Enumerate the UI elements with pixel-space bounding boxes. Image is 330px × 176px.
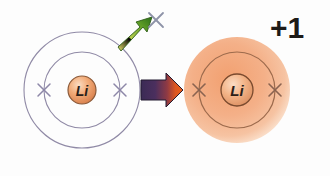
ion-charge-label: +1: [270, 11, 304, 44]
transformation-arrow: [141, 73, 183, 107]
diagram-canvas: Li Li +1: [0, 0, 330, 176]
electron-ejection-arrow: [118, 17, 152, 51]
ion-nucleus-label: Li: [230, 82, 244, 99]
lithium-ion: Li +1: [184, 11, 304, 143]
lithium-ionization-diagram: Li Li +1: [0, 0, 330, 176]
neutral-atom-nucleus-label: Li: [76, 83, 90, 99]
